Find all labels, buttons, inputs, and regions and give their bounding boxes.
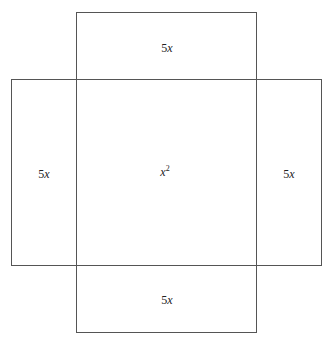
box-net-diagram: 5x 5x x2 5x 5x: [0, 0, 331, 343]
label-left: 5x: [38, 167, 50, 181]
label-bottom: 5x: [161, 293, 173, 307]
label-right: 5x: [283, 167, 295, 181]
label-top: 5x: [161, 41, 173, 55]
label-center: x2: [159, 164, 169, 179]
